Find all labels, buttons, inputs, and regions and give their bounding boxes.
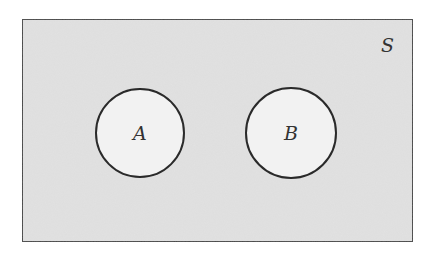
set-a-label: A (131, 122, 147, 144)
set-b: B (246, 88, 336, 178)
set-b-label: B (283, 122, 298, 144)
sample-space-rectangle (22, 19, 413, 242)
sample-space-label: S (381, 34, 394, 56)
venn-diagram: S A B (0, 0, 427, 258)
set-a: A (96, 89, 184, 177)
